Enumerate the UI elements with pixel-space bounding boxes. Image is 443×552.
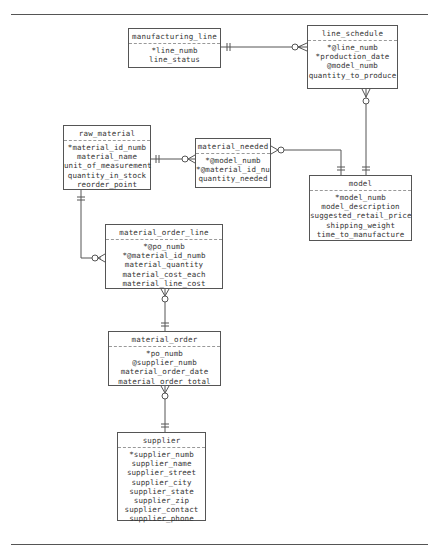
entity-attribute: *po_numb [109, 349, 220, 358]
entity-attribute: material_name [64, 152, 150, 161]
entity-attribute: *production_date [308, 52, 397, 61]
rel-raw-material-material-needed [151, 155, 195, 163]
entity-title: line_schedule [308, 26, 397, 41]
entity-attribute: supplier_zip [118, 496, 205, 505]
entity-attribute: *supplier_numb [118, 450, 205, 459]
entity-attribute: *material_id_numb [64, 143, 150, 152]
entity-title: material_order [109, 332, 220, 347]
entity-title: material_order_line [106, 225, 222, 240]
entity-attribute: material_line_cost [106, 279, 222, 288]
entity-attribute: time_to_manufacture [310, 230, 411, 239]
entity-title: raw_material [64, 126, 150, 141]
entity-attribute: quantity_in_stock [64, 171, 150, 180]
entity-material-order[interactable]: material_order *po_numb @supplier_numb m… [108, 331, 221, 386]
entity-attribute: material_cost_each [106, 270, 222, 279]
entity-attribute: @supplier_numb [109, 358, 220, 367]
entity-attribute: *@po_numb [106, 242, 222, 251]
entity-manufacturing-line[interactable]: manufacturing_line *line_numb line_statu… [128, 28, 221, 68]
entity-attribute: material_order_total [109, 377, 220, 386]
entity-title: model [310, 176, 411, 191]
entity-attribute: supplier_name [118, 459, 205, 468]
entity-title: supplier [118, 433, 205, 448]
entity-model[interactable]: model *model_numb model_description sugg… [309, 175, 412, 241]
entity-supplier[interactable]: supplier *supplier_numb supplier_name su… [117, 432, 206, 521]
entity-attribute: model_description [310, 202, 411, 211]
entity-attribute: quantity_needed [196, 174, 270, 183]
entity-attribute: quantity_to_produce [308, 71, 397, 80]
entity-attribute: supplier_city [118, 478, 205, 487]
rel-line-schedule-model [362, 89, 370, 175]
entity-attribute: *model_numb [310, 193, 411, 202]
entity-line-schedule[interactable]: line_schedule *@line_numb *production_da… [307, 25, 398, 89]
entity-attribute: material_order_date [109, 367, 220, 376]
entity-title: material_needed [196, 139, 270, 154]
entity-raw-material[interactable]: raw_material *material_id_numb material_… [63, 125, 151, 190]
entity-attribute: *line_numb [129, 46, 220, 55]
entity-attribute: *@model_numb [196, 156, 270, 165]
entity-attribute: supplier_contact [118, 505, 205, 514]
rel-material-needed-model [271, 146, 345, 175]
entity-attribute: suggested_retail_price [310, 211, 411, 220]
entity-attribute: supplier_state [118, 487, 205, 496]
rel-material-order-line-material-order [161, 289, 169, 331]
rel-raw-material-material-order-line [77, 190, 105, 262]
entity-attribute: supplier_street [118, 468, 205, 477]
entity-attribute: unit_of_measurement [64, 161, 150, 170]
rel-manufacturing-line-line-schedule [221, 43, 307, 51]
entity-attribute: supplier_phone [118, 514, 205, 523]
entity-attribute: reorder_point [64, 180, 150, 189]
entity-attribute: *@material_id_nu [196, 165, 270, 174]
entity-attribute: *@line_numb [308, 43, 397, 52]
entity-material-order-line[interactable]: material_order_line *@po_numb *@material… [105, 224, 223, 289]
entity-title: manufacturing_line [129, 29, 220, 44]
entity-attribute: line_status [129, 55, 220, 64]
rel-material-order-supplier [161, 386, 169, 432]
entity-attribute: shipping_weight [310, 221, 411, 230]
entity-material-needed[interactable]: material_needed *@model_numb *@material_… [195, 138, 271, 188]
entity-attribute: @model_numb [308, 61, 397, 70]
entity-attribute: material_quantity [106, 260, 222, 269]
entity-attribute: *@material_id_numb [106, 251, 222, 260]
